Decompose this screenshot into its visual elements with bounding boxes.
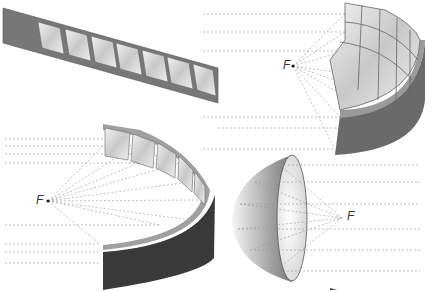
focus-label-dish: F xyxy=(347,209,354,223)
diagram-canvas xyxy=(0,0,437,291)
cylindrical-multi-row-mirror xyxy=(203,3,425,290)
cylindrical-single-row-mirror xyxy=(5,124,215,290)
focus-point-2 xyxy=(291,64,294,67)
focus-point-3 xyxy=(46,199,49,202)
paraboloid-dish xyxy=(232,155,420,282)
flat-mirror-strip xyxy=(3,8,218,103)
focus-label-single-row: F xyxy=(36,193,43,207)
focus-label-multi-row: F xyxy=(283,58,290,72)
